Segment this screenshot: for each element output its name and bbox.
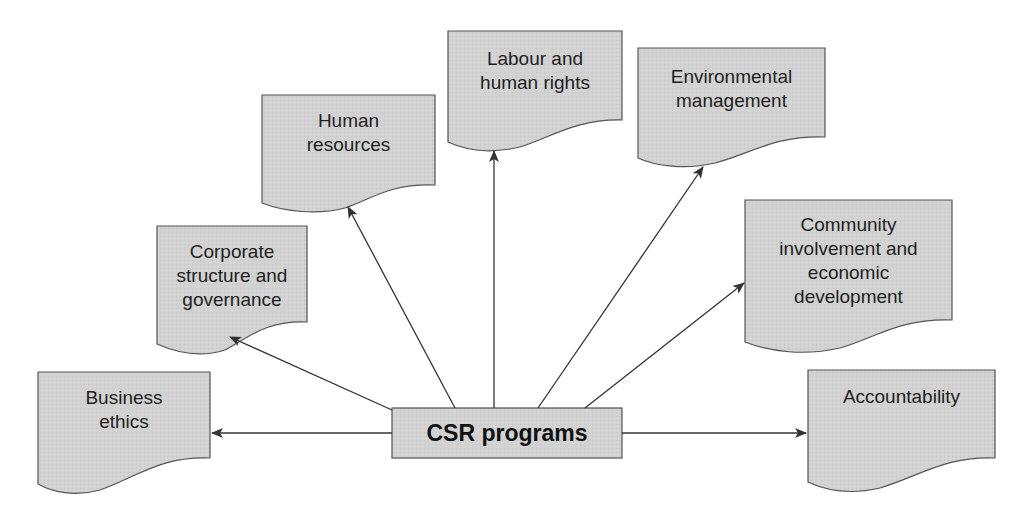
label-business-ethics: Business ethics (38, 386, 210, 434)
label-corporate-structure: Corporate structure and governance (157, 240, 307, 312)
arrow-to-human-resources (348, 207, 455, 408)
label-labour-human-rights: Labour and human rights (448, 47, 622, 95)
label-human-resources: Human resources (262, 109, 435, 157)
label-accountability: Accountability (808, 385, 995, 409)
csr-programs-label: CSR programs (392, 408, 622, 458)
label-environmental-management: Environmental management (638, 65, 825, 113)
arrow-to-corporate-structure (230, 337, 392, 410)
arrow-to-environmental-management (538, 167, 703, 408)
label-community-involvement: Community involvement and economic devel… (745, 213, 952, 309)
arrow-to-community-involvement (585, 283, 744, 408)
